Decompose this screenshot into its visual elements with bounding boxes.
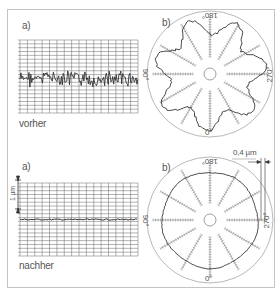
bottom-angle-0: 0°: [205, 274, 212, 283]
top-caption-vorher: vorher: [19, 118, 46, 129]
top-angle-270: 270°: [265, 67, 274, 83]
bottom-scale-label: 1 µm: [9, 186, 16, 201]
bottom-linear-panel-label: a): [22, 161, 31, 172]
bottom-angle-90: 90°: [141, 215, 150, 227]
top-polar-panel-label: b): [162, 17, 171, 28]
bottom-angle-270: 270°: [262, 213, 271, 229]
bottom-angle-180: 180°: [202, 157, 218, 166]
bottom-linear-trace: [20, 219, 137, 220]
bottom-polar-scale-label: 0,4 µm: [233, 148, 256, 157]
top-angle-180: 180°: [202, 11, 218, 20]
top-linear-panel-label: a): [22, 20, 31, 31]
bottom-polar-panel-label: b): [162, 162, 171, 173]
top-angle-0: 0°: [205, 128, 212, 137]
bottom-polar-plot: [147, 157, 273, 283]
top-linear-grid: [18, 40, 138, 113]
bottom-caption-nachher: nachher: [19, 260, 54, 271]
scale-marker-04um: [232, 158, 271, 220]
top-angle-90: 90°: [141, 69, 150, 81]
top-polar-plot: [147, 11, 273, 137]
